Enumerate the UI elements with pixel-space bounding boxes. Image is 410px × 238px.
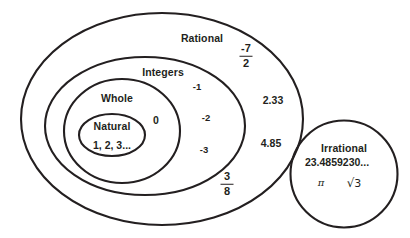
square-root-of-three: √3 bbox=[347, 177, 362, 189]
zero-value: 0 bbox=[153, 115, 159, 126]
irrational-decimal-value: 23.4859230... bbox=[305, 157, 369, 168]
negative-three-value: -3 bbox=[200, 145, 208, 155]
integers-set-label: Integers bbox=[142, 67, 184, 78]
irrational-set-label: Irrational bbox=[321, 143, 367, 154]
natural-set-label: Natural bbox=[94, 121, 131, 132]
negative-one-value: -1 bbox=[193, 82, 201, 92]
whole-set-label: Whole bbox=[101, 93, 133, 104]
fraction-three-eighths: 3 8 bbox=[221, 171, 234, 197]
radicand-value: 3 bbox=[354, 177, 361, 190]
fraction-denominator: 2 bbox=[243, 58, 249, 70]
fraction-numerator: -7 bbox=[241, 43, 251, 55]
natural-members-value: 1, 2, 3... bbox=[93, 140, 131, 151]
four-point-eight-five-value: 4.85 bbox=[261, 138, 281, 149]
irrational-set-circle bbox=[291, 121, 398, 228]
number-sets-venn-diagram: Rational Integers Whole Natural Irration… bbox=[0, 0, 410, 238]
negative-two-value: -2 bbox=[202, 113, 210, 123]
fraction-negative-seven-halves: -7 2 bbox=[240, 43, 253, 69]
fraction-numerator: 3 bbox=[224, 171, 230, 183]
two-point-three-three-value: 2.33 bbox=[263, 95, 283, 106]
fraction-denominator: 8 bbox=[224, 186, 230, 198]
radical-sign: √ bbox=[347, 176, 355, 190]
rational-set-label: Rational bbox=[181, 33, 223, 44]
pi-symbol: π bbox=[318, 178, 325, 188]
